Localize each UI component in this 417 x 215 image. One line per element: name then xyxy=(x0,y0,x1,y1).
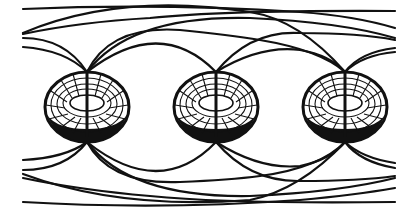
torus-1 xyxy=(45,72,129,142)
field-lines-top xyxy=(23,5,395,72)
torus-3 xyxy=(303,72,387,142)
toroidal-field-diagram xyxy=(0,0,417,215)
field-lines-bottom xyxy=(23,142,395,206)
torus-2 xyxy=(174,72,258,142)
